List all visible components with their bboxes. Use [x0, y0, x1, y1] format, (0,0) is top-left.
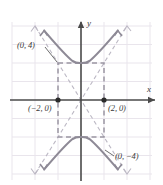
- label-point-0-4: (0, 4): [17, 41, 35, 50]
- leader-line-top-vertex: [45, 47, 57, 62]
- hyperbola-figure: (0, 4) (−2, 0) (2, 0) (0, −4) x y: [0, 0, 163, 185]
- label-x-axis: x: [147, 85, 151, 94]
- label-point-2-0: (2, 0): [108, 104, 126, 113]
- label-y-axis: y: [87, 19, 91, 28]
- label-point-minus-2-0: (−2, 0): [28, 104, 51, 113]
- x-axis-arrow: [148, 97, 155, 103]
- point-minus-2-0: [55, 97, 60, 102]
- label-point-0-minus-4: (0, −4): [115, 152, 138, 161]
- y-axis-arrow: [78, 21, 84, 28]
- point-2-0: [101, 97, 106, 102]
- graph-canvas: [0, 0, 163, 185]
